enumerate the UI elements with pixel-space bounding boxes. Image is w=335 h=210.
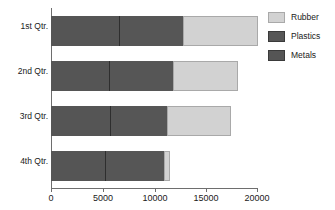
category-label-4th-qtr: 4th Qtr. [2, 156, 48, 166]
bar-segment-rubber [173, 61, 238, 91]
bar-segment-metals [51, 106, 111, 136]
bar-segment-plastics [111, 106, 167, 136]
x-axis-tick-label-20000: 20000 [244, 193, 269, 203]
x-axis-tick-labels: 0 5000 10000 15000 20000 [51, 193, 258, 207]
bar-row-3rd-qtr [51, 106, 231, 136]
x-axis-tick-20000 [257, 188, 258, 192]
bar-segment-rubber [183, 16, 258, 46]
rubber-swatch-icon [268, 12, 285, 23]
bar-segment-rubber [164, 151, 170, 181]
bar-segment-metals [51, 61, 110, 91]
bar-row-2nd-qtr [51, 61, 238, 91]
x-axis-tick-label-15000: 15000 [193, 193, 218, 203]
plot-area [51, 8, 258, 188]
x-axis-tick-10000 [155, 188, 156, 192]
bar-segment-plastics [110, 61, 173, 91]
category-label-2nd-qtr: 2nd Qtr. [2, 66, 48, 76]
bar-segment-metals [51, 151, 106, 181]
stacked-bar-chart: 1st Qtr. 2nd Qtr. 3rd Qtr. 4th Qtr. [0, 0, 335, 210]
bar-segment-metals [51, 16, 120, 46]
legend-label-metals: Metals [291, 50, 316, 60]
plastics-swatch-icon [268, 31, 285, 42]
x-axis-tick-label-5000: 5000 [93, 193, 113, 203]
x-axis-tick-label-10000: 10000 [142, 193, 167, 203]
bar-segment-plastics [120, 16, 183, 46]
legend-item-plastics: Plastics [268, 29, 334, 43]
category-label-3rd-qtr: 3rd Qtr. [2, 111, 48, 121]
x-axis-tick-5000 [103, 188, 104, 192]
bar-row-4th-qtr [51, 151, 170, 181]
bar-segment-plastics [106, 151, 164, 181]
legend-item-metals: Metals [268, 48, 334, 62]
legend-item-rubber: Rubber [268, 10, 334, 24]
category-label-1st-qtr: 1st Qtr. [2, 21, 48, 31]
x-axis-tick-label-0: 0 [48, 193, 53, 203]
chart-legend: Rubber Plastics Metals [268, 10, 334, 67]
bar-row-1st-qtr [51, 16, 258, 46]
legend-label-rubber: Rubber [291, 12, 319, 22]
x-axis-tick-0 [51, 188, 52, 192]
legend-label-plastics: Plastics [291, 31, 320, 41]
x-axis-tick-15000 [206, 188, 207, 192]
metals-swatch-icon [268, 50, 285, 61]
y-axis-category-labels: 1st Qtr. 2nd Qtr. 3rd Qtr. 4th Qtr. [0, 8, 48, 188]
bar-segment-rubber [167, 106, 231, 136]
